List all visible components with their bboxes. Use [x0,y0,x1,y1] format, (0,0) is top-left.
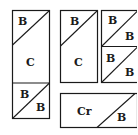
right-top-label-b: B [125,30,134,43]
left-middle-label: C [26,56,35,69]
bottom-wide-label-b: B [117,111,126,124]
bottom-wide-label-cr: Cr [77,105,92,118]
left-column: B C B B [13,11,50,119]
bottom-wide-piece: Cr B [61,94,138,128]
right-bottom-label-b: B [125,66,134,79]
middle-column: B C [61,11,98,83]
quilt-diagram: B C B B B C B B B B Cr B [0,0,137,135]
right-column: B B B B [102,11,138,83]
middle-middle-label: C [74,56,83,69]
left-bottom-label-b: B [36,101,45,114]
left-bottom-label-a: B [20,88,29,101]
middle-top-label: B [70,15,79,28]
left-top-label: B [18,15,27,28]
right-bottom-label-a: B [106,52,115,65]
right-top-label-a: B [108,14,117,27]
